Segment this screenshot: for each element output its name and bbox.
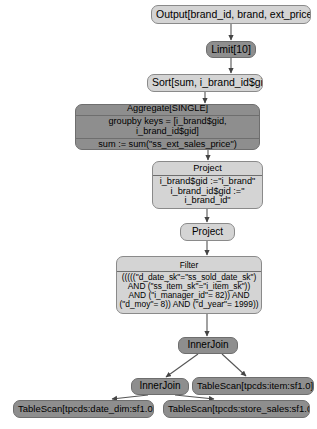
node-tablescan-date-dim[interactable]: TableScan[tpcds:date_dim:sf1.0] <box>13 400 154 418</box>
edge-innerjoin-innerjoin <box>166 354 198 377</box>
node-innerjoin-top[interactable]: InnerJoin <box>178 337 238 354</box>
node-aggregate-sum: sum := sum("ss_ext_sales_price") <box>76 138 259 150</box>
node-aggregate-groupby: groupby keys = [i_brand$gid, i_brand_id$… <box>76 115 259 138</box>
node-filter-title: Filter <box>117 260 261 271</box>
node-output[interactable]: Output[brand_id, brand, ext_price] <box>151 5 311 24</box>
node-aggregate[interactable]: Aggregate[SINGLE] groupby keys = [i_bran… <box>75 104 260 150</box>
node-project-detail-title: Project <box>153 163 262 175</box>
node-project-detail-line1: i_brand$gid :="i_brand" <box>155 177 260 187</box>
query-plan-diagram: Output[brand_id, brand, ext_price] Limit… <box>0 0 317 429</box>
node-innerjoin-top-label: InnerJoin <box>179 339 237 352</box>
node-project-plain[interactable]: Project <box>180 223 235 241</box>
node-tablescan-item[interactable]: TableScan[tpcds:item:sf1.0] <box>192 377 314 395</box>
plan-edges <box>0 0 317 429</box>
node-project-detail[interactable]: Project i_brand$gid :="i_brand" i_brand_… <box>152 161 263 209</box>
node-sort-label: Sort[sum, i_brand_id$gid] <box>148 76 262 89</box>
node-innerjoin-lower-label: InnerJoin <box>132 380 188 393</box>
edge-innerjoin-tablescan-date-dim <box>112 395 148 399</box>
node-limit-label: Limit[10] <box>207 43 255 56</box>
node-limit[interactable]: Limit[10] <box>206 41 256 58</box>
node-project-detail-body: i_brand$gid :="i_brand" i_brand_id$gid :… <box>153 175 262 208</box>
edge-innerjoin-tablescan-store-sales <box>175 395 214 399</box>
node-tablescan-store-sales[interactable]: TableScan[tpcds:store_sales:sf1.0] <box>163 400 310 418</box>
node-tablescan-date-dim-label: TableScan[tpcds:date_dim:sf1.0] <box>14 403 153 415</box>
node-tablescan-store-sales-label: TableScan[tpcds:store_sales:sf1.0] <box>164 403 309 415</box>
node-sort[interactable]: Sort[sum, i_brand_id$gid] <box>147 74 263 92</box>
node-project-detail-line3: i_brand_id" <box>155 196 260 206</box>
node-output-label: Output[brand_id, brand, ext_price] <box>152 8 310 21</box>
node-project-plain-label: Project <box>181 226 234 239</box>
node-innerjoin-lower[interactable]: InnerJoin <box>131 378 189 395</box>
node-tablescan-item-label: TableScan[tpcds:item:sf1.0] <box>193 380 313 392</box>
node-filter[interactable]: Filter ((((("d_date_sk"="ss_sold_date_sk… <box>116 256 262 314</box>
edge-innerjoin-tablescan-item <box>222 354 246 376</box>
node-filter-predicate: ((((("d_date_sk"="ss_sold_date_sk") AND … <box>117 271 261 310</box>
node-aggregate-title: Aggregate[SINGLE] <box>76 104 259 115</box>
